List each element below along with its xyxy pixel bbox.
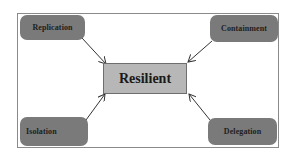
node-containment-label: Containment [221, 24, 267, 33]
node-replication-label: Replication [32, 23, 72, 32]
node-replication: Replication [20, 15, 85, 40]
arrow-containment-to-resilient [188, 41, 212, 62]
node-containment: Containment [210, 15, 278, 42]
node-delegation-label: Delegation [224, 127, 261, 136]
node-resilient-label: Resilient [119, 71, 171, 87]
arrow-replication-to-resilient [82, 38, 106, 64]
node-resilient: Resilient [103, 63, 187, 94]
arrow-isolation-to-resilient [86, 94, 105, 120]
arrow-delegation-to-resilient [189, 94, 210, 120]
node-isolation-label: Isolation [26, 127, 57, 136]
node-delegation: Delegation [208, 118, 277, 145]
node-isolation: Isolation [20, 117, 88, 146]
